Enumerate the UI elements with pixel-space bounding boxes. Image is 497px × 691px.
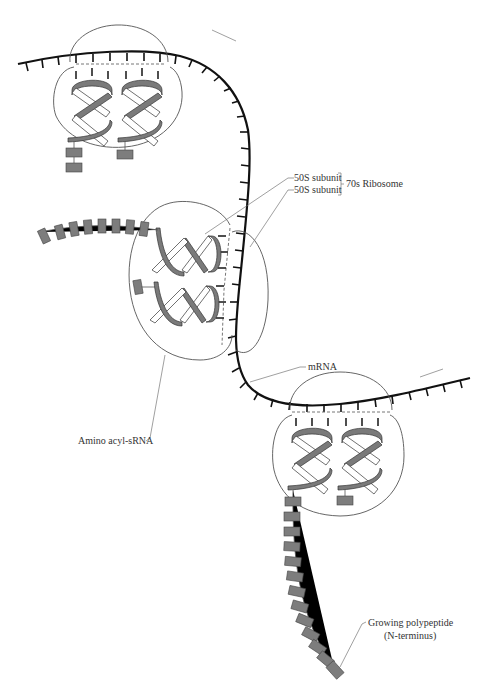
small-subunit-top (70, 25, 168, 62)
trna-middle-2 (150, 282, 226, 326)
trna-middle-1 (152, 228, 228, 276)
direction-mark-top (212, 30, 236, 41)
translation-diagram (0, 0, 497, 691)
trna-top-2 (118, 68, 162, 146)
trna-bottom-1 (288, 418, 332, 494)
trna-bottom-2 (338, 418, 382, 494)
trna-top-1 (68, 68, 112, 146)
large-subunit-top (54, 67, 183, 147)
label-amino-acyl-srna: Amino acyl-sRNA (78, 435, 153, 446)
label-n-terminus: (N-terminus) (384, 630, 436, 641)
label-growing-polypeptide: Growing polypeptide (368, 617, 453, 628)
label-70s-ribosome: 70s Ribosome (346, 178, 403, 189)
chain-middle (37, 219, 158, 295)
residue-bottom-trna2 (337, 496, 353, 505)
label-50s-subunit-top: 50S subunit (294, 172, 342, 183)
chain-top (66, 142, 133, 172)
ribosome-top (54, 25, 183, 172)
chain-bottom (284, 490, 344, 679)
label-mrna: mRNA (308, 361, 337, 372)
label-50s-subunit-bottom: 50S subunit (294, 184, 342, 195)
direction-mark-bottom (420, 369, 443, 377)
small-subunit-middle (232, 231, 268, 353)
